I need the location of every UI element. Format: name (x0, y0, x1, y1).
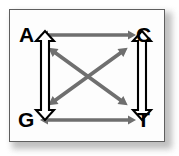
node-label-t: T (137, 109, 150, 130)
edge-arrow-a-g (36, 31, 54, 120)
edge-arrow-a-c (40, 31, 136, 40)
node-label-c: C (136, 24, 151, 45)
diagram-panel: A C G T (9, 9, 165, 142)
node-label-g: G (18, 109, 34, 130)
figure-root: A C G T (0, 0, 179, 156)
edge-arrow-g-t (40, 116, 136, 125)
node-label-a: A (19, 24, 34, 45)
